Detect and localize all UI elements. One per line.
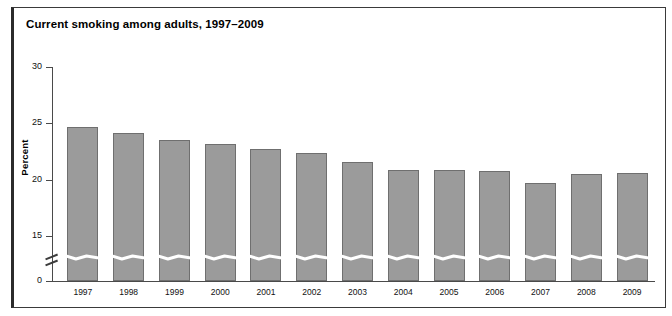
x-axis-tick-label: 2002 [290, 287, 334, 297]
x-axis-tick-label: 2009 [610, 287, 654, 297]
bar [434, 170, 465, 281]
x-axis-tick-label: 1999 [152, 287, 196, 297]
y-axis-label: Percent [19, 128, 30, 188]
y-axis-tick-30 [46, 67, 52, 68]
bar [250, 149, 281, 281]
y-axis-line [52, 67, 53, 281]
x-axis-tick-label: 2006 [473, 287, 517, 297]
bar [479, 171, 510, 281]
bar [388, 170, 419, 281]
bar [113, 133, 144, 281]
bar [296, 153, 327, 281]
bar [617, 173, 648, 281]
bar [525, 183, 556, 281]
x-axis-tick-label: 2008 [564, 287, 608, 297]
plot-area: 015202530 Percent 1997199819992000200120… [0, 0, 672, 316]
y-axis-tick-label: 0 [16, 275, 42, 285]
x-axis-tick-label: 2007 [519, 287, 563, 297]
y-axis-tick-15 [46, 236, 52, 237]
bar [159, 140, 190, 281]
x-axis-tick-label: 2001 [244, 287, 288, 297]
y-axis-tick-label: 30 [16, 61, 42, 71]
x-axis-tick-label: 2000 [198, 287, 242, 297]
x-axis-line [52, 281, 655, 282]
bar [342, 162, 373, 281]
x-axis-tick-label: 2003 [336, 287, 380, 297]
y-axis-tick-25 [46, 123, 52, 124]
x-axis-tick-label: 2004 [381, 287, 425, 297]
bar [67, 127, 98, 281]
y-axis-tick-label: 25 [16, 117, 42, 127]
x-axis-tick-label: 1997 [61, 287, 105, 297]
bar [205, 144, 236, 281]
y-axis-tick-20 [46, 180, 52, 181]
bar [571, 174, 602, 281]
y-axis-tick-0 [46, 281, 52, 282]
x-axis-tick-label: 2005 [427, 287, 471, 297]
chart-figure: Current smoking among adults, 1997–2009 … [0, 0, 672, 316]
y-axis-tick-label: 15 [16, 230, 42, 240]
x-axis-tick-label: 1998 [107, 287, 151, 297]
